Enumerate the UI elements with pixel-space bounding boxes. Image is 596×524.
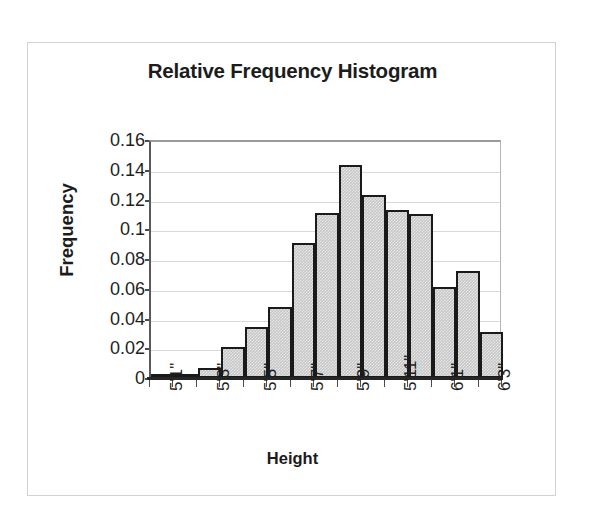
x-axis-tick-mark <box>243 380 244 387</box>
gridline <box>151 202 500 203</box>
x-axis-tick-mark <box>337 380 338 387</box>
x-axis-category-label: 5'11" <box>401 355 421 391</box>
histogram-bar <box>292 243 315 378</box>
y-axis-tick-label: 0.12 <box>73 189 145 210</box>
x-axis-category-label: 5'1" <box>167 363 187 391</box>
y-axis-tick-label: 0.06 <box>73 278 145 299</box>
x-axis-category-label: 6'1" <box>448 363 468 391</box>
histogram-bar <box>362 195 385 378</box>
x-axis-tick-mark <box>478 380 479 387</box>
y-axis-tick-label: 0 <box>73 368 145 389</box>
histogram-bar <box>409 214 432 378</box>
x-axis-category-label: 5'7" <box>308 363 328 391</box>
y-axis-tick-label: 0.04 <box>73 308 145 329</box>
x-axis-tick-mark <box>431 380 432 387</box>
x-axis-category-label: 5'9" <box>354 363 374 391</box>
histogram-bar <box>315 213 338 378</box>
x-axis-category-labels: 5'1"5'3"5'5"5'7"5'9"5'11"6'1"6'3" <box>149 391 501 451</box>
gridline <box>151 172 500 173</box>
y-axis-tick-label: 0.14 <box>73 159 145 180</box>
figure-frame: Relative Frequency Histogram Frequency 0… <box>27 42 556 496</box>
x-axis-tick-mark <box>196 380 197 387</box>
x-axis-category-label: 5'5" <box>261 363 281 391</box>
y-axis-tick-label: 0.02 <box>73 338 145 359</box>
histogram-bar <box>386 210 409 378</box>
plot-area <box>149 140 501 378</box>
y-axis-tick-label: 0.16 <box>73 130 145 151</box>
y-axis-tick-label: 0.1 <box>73 219 145 240</box>
y-axis-tick-label: 0.08 <box>73 249 145 270</box>
x-axis-tick-mark <box>290 380 291 387</box>
x-axis-title: Height <box>28 449 557 468</box>
chart-title: Relative Frequency Histogram <box>28 59 557 83</box>
histogram-bar <box>339 165 362 378</box>
y-axis-tick-labels: 0.160.140.120.10.080.060.040.020 <box>69 140 145 378</box>
x-axis-tick-mark <box>384 380 385 387</box>
x-axis-category-label: 5'3" <box>214 363 234 391</box>
x-axis-category-label: 6'3" <box>495 363 515 391</box>
x-axis-tick-mark <box>149 380 150 387</box>
